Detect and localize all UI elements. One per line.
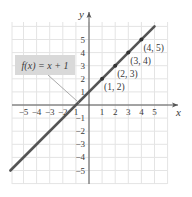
- y-tick-label: 5: [81, 35, 86, 45]
- x-tick-label: 2: [113, 107, 118, 117]
- y-tick-label: −2: [75, 126, 85, 136]
- graph-canvas: xy −5−4−3−2112345−5−4−3−2−112345 (1, 2)(…: [0, 0, 192, 197]
- data-point-label: (2, 3): [117, 69, 138, 80]
- data-point-marker: [139, 38, 143, 42]
- data-point-marker: [126, 51, 130, 55]
- y-tick-label: −3: [75, 139, 85, 149]
- data-point-marker: [100, 77, 104, 81]
- x-tick-label: −5: [19, 107, 29, 117]
- y-tick-label: 2: [81, 74, 86, 84]
- x-tick-label: −4: [32, 107, 42, 117]
- label-box-text: f(x) = x + 1: [22, 60, 69, 72]
- x-tick-label: 5: [152, 107, 157, 117]
- x-tick-label: 4: [139, 107, 144, 117]
- y-tick-label: −5: [75, 166, 85, 176]
- y-tick-label: 4: [81, 48, 86, 58]
- x-tick-label: −3: [45, 107, 55, 117]
- data-point-marker: [113, 64, 117, 68]
- y-tick-label: −4: [75, 152, 85, 162]
- x-tick-label: 1: [100, 107, 105, 117]
- function-graph: xy −5−4−3−2112345−5−4−3−2−112345 (1, 2)(…: [0, 0, 192, 197]
- x-tick-label: 3: [126, 107, 131, 117]
- y-axis-label: y: [78, 8, 84, 20]
- x-axis-label: x: [175, 106, 181, 118]
- data-point-label: (4, 5): [143, 43, 164, 54]
- y-tick-label: 3: [81, 61, 86, 71]
- y-tick-label: −1: [75, 113, 85, 123]
- data-point-label: (1, 2): [104, 82, 125, 93]
- data-point-label: (3, 4): [130, 56, 151, 67]
